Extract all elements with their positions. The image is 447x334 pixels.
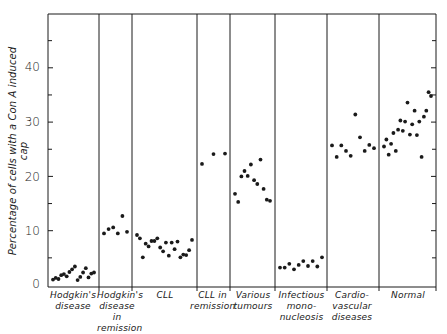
- data-point: [372, 146, 376, 150]
- data-point: [76, 278, 80, 282]
- data-point: [252, 178, 256, 182]
- data-point: [422, 115, 426, 119]
- data-point: [135, 233, 139, 237]
- data-point: [394, 149, 398, 153]
- data-point: [125, 230, 129, 234]
- y-tick-30: 30: [20, 115, 40, 129]
- data-point: [353, 113, 357, 117]
- category-label-infectious-mononucleosis: Infectious mono- nucleosis: [274, 290, 329, 323]
- data-point: [170, 241, 174, 245]
- data-point: [320, 255, 324, 259]
- data-point: [73, 265, 77, 269]
- data-point: [200, 162, 204, 166]
- data-point: [155, 236, 159, 240]
- data-point: [164, 241, 168, 245]
- data-point: [389, 142, 393, 146]
- y-tick-20: 20: [20, 170, 40, 184]
- data-point: [243, 169, 247, 173]
- data-point: [262, 187, 266, 191]
- data-point: [70, 267, 74, 271]
- data-point: [417, 120, 421, 124]
- plot-frame: [48, 14, 436, 291]
- data-point: [184, 253, 188, 257]
- data-point: [116, 232, 120, 236]
- data-point: [283, 266, 287, 270]
- data-point: [144, 242, 148, 246]
- data-point: [233, 192, 237, 196]
- data-point: [420, 155, 424, 159]
- category-label-hodgkins: Hodgkin's disease: [42, 290, 104, 312]
- category-label-normal: Normal: [382, 290, 434, 301]
- data-point: [68, 270, 72, 274]
- data-point: [141, 255, 145, 259]
- data-point: [111, 226, 115, 230]
- data-point: [387, 153, 391, 157]
- data-point: [255, 182, 259, 186]
- data-point: [147, 245, 151, 249]
- data-point: [429, 94, 433, 98]
- data-point: [78, 275, 82, 279]
- data-point: [330, 144, 334, 148]
- category-label-cardiovascular: Cardio- vascular diseases: [326, 290, 378, 323]
- data-point: [392, 131, 396, 135]
- panel-dividers: [99, 14, 379, 291]
- data-point: [363, 149, 367, 153]
- data-point: [190, 238, 194, 242]
- category-label-cll: CLL: [135, 290, 195, 301]
- data-point: [161, 249, 165, 253]
- data-point: [335, 155, 339, 159]
- data-point: [306, 264, 310, 268]
- data-point: [367, 143, 371, 147]
- data-point: [92, 271, 96, 275]
- data-point: [179, 255, 183, 259]
- data-point: [408, 133, 412, 137]
- data-point: [427, 90, 431, 94]
- axis-ticks: [48, 41, 436, 258]
- category-label-hodgkins-remission: Hodgkin's disease in remission: [97, 290, 137, 334]
- data-point: [176, 240, 180, 244]
- data-point: [382, 145, 386, 149]
- data-point: [223, 152, 227, 156]
- data-point: [403, 120, 407, 124]
- data-point: [249, 163, 253, 167]
- data-point: [311, 259, 315, 263]
- y-tick-0: 0: [20, 277, 40, 291]
- data-point: [399, 119, 403, 123]
- data-point: [158, 246, 162, 250]
- data-point: [87, 276, 91, 280]
- data-point: [173, 247, 177, 251]
- data-point: [396, 128, 400, 132]
- data-point: [301, 259, 305, 263]
- data-point: [287, 262, 291, 266]
- data-point: [339, 144, 343, 148]
- data-point: [415, 133, 419, 137]
- data-point: [278, 266, 282, 270]
- data-point: [406, 101, 410, 105]
- data-point: [240, 175, 244, 179]
- data-point: [268, 199, 272, 203]
- data-point: [57, 277, 61, 281]
- data-points: [51, 90, 433, 282]
- data-point: [292, 267, 296, 271]
- data-point: [401, 129, 405, 133]
- data-point: [65, 274, 69, 278]
- data-point: [167, 254, 171, 258]
- data-point: [138, 236, 142, 240]
- data-point: [297, 263, 301, 267]
- data-point: [349, 154, 353, 158]
- dot-plot: [0, 0, 447, 334]
- data-point: [246, 174, 250, 178]
- data-point: [121, 214, 125, 218]
- data-point: [212, 152, 216, 156]
- data-point: [315, 265, 319, 269]
- data-point: [410, 122, 414, 126]
- data-point: [153, 239, 157, 243]
- data-point: [358, 135, 362, 139]
- y-tick-10: 10: [20, 224, 40, 238]
- category-label-various-tumours: Various tumours: [228, 290, 278, 312]
- data-point: [385, 138, 389, 142]
- data-point: [187, 248, 191, 252]
- y-tick-40: 40: [20, 60, 40, 74]
- data-point: [413, 109, 417, 113]
- data-point: [259, 158, 263, 162]
